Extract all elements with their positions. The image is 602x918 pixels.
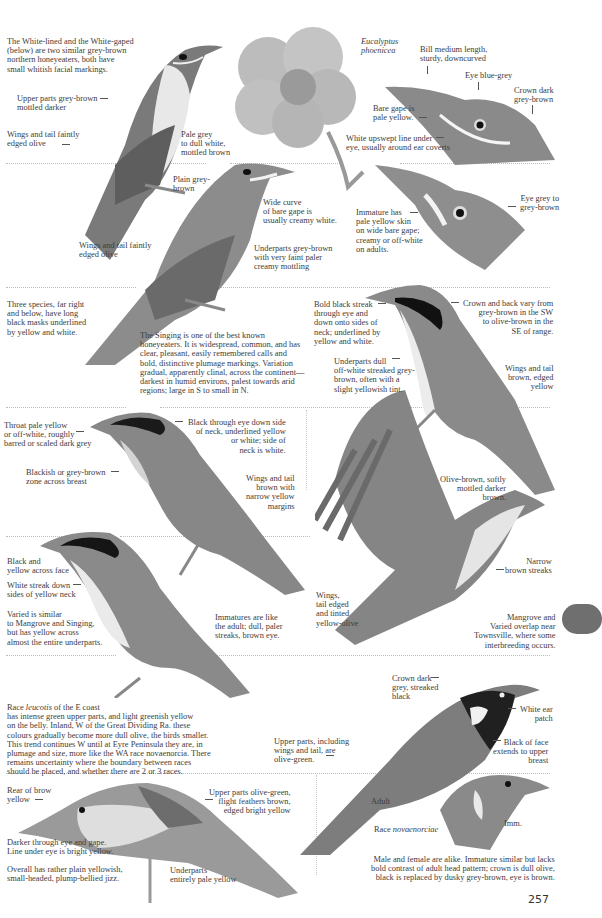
white-lined-intro: The White-lined and the White-gaped (bel… xyxy=(7,37,134,74)
white-lined-upswept-label: White upswept line under eye, usually ar… xyxy=(346,134,450,152)
leader-line xyxy=(73,584,81,585)
immature-label: Imm. xyxy=(504,819,522,828)
darker-through-eye-label: Darker through eye and gape. Line under … xyxy=(7,838,113,856)
leader-line xyxy=(100,98,108,99)
leader-line xyxy=(378,303,386,304)
singing-description: The Singing is one of the best known hon… xyxy=(140,331,304,395)
race-novaenorciae-immature-illustration xyxy=(440,770,550,850)
leader-line xyxy=(326,755,334,756)
black-face-label: Black of face extends to upper breast xyxy=(493,738,548,766)
plant-label-genus: Eucalyptus xyxy=(361,37,398,46)
leader-line xyxy=(493,740,501,741)
leader-line xyxy=(532,105,533,114)
white-lined-bill-label: Bill medium length, sturdy, downcurved xyxy=(420,45,487,63)
white-lined-wings-label: Wings and tail faintly edged olive xyxy=(7,130,79,148)
leader-line xyxy=(62,144,70,145)
mangrove-black-eye-label: Black through eye down side of neck, und… xyxy=(188,418,286,455)
white-lined-crown-label: Crown dark grey-brown xyxy=(514,86,554,104)
singing-crown-back-label: Crown and back vary from grey-brown in t… xyxy=(463,299,553,336)
leader-line xyxy=(436,137,444,138)
sexes-note: Male and female are alike. Immature simi… xyxy=(371,855,555,883)
leader-line xyxy=(392,358,400,359)
yellow-faced-underparts-label: Underparts entirely pale yellow xyxy=(170,866,237,884)
white-lined-underparts-label: Pale grey to dull white, mottled brown xyxy=(181,130,230,158)
mangrove-throat-label: Throat pale yellow or off-white, roughly… xyxy=(4,421,91,449)
white-ear-patch-label: White ear patch xyxy=(520,705,553,723)
leader-line xyxy=(175,421,183,422)
varied-immatures-note: Immatures are like the adult; dull, pale… xyxy=(215,613,282,641)
mangrove-wings-tinted-label: Wings, tail edged and tinted yellow-oliv… xyxy=(316,591,358,628)
white-gaped-plain-label: Plain grey- brown xyxy=(173,175,210,193)
leader-line xyxy=(451,302,459,303)
adult-label: Adult xyxy=(371,797,390,806)
leader-line xyxy=(76,431,84,432)
leader-line xyxy=(35,799,43,800)
singing-underparts-label: Underparts dull off-white streaked grey-… xyxy=(334,357,415,394)
rear-brow-label: Rear of brow yellow xyxy=(7,786,51,804)
race-leucotis-paragraph: Race leucotis of the E coast has intense… xyxy=(7,703,211,777)
mangrove-overlap-note: Mangrove and Varied overlap near Townsvi… xyxy=(474,613,556,650)
section-thumb-tab xyxy=(562,604,602,634)
yellow-faced-upperparts-label: Upper parts olive-green, flight feathers… xyxy=(209,788,291,816)
singing-streak-label: Bold black streak through eye and down o… xyxy=(314,300,381,346)
divider xyxy=(306,410,307,490)
white-gaped-wings-label: Wings and tail faintly edged olive xyxy=(79,241,151,259)
three-species-note: Three species, far right and below, have… xyxy=(7,300,86,337)
race-novaenorciae-label: Race novaenorciae xyxy=(374,816,438,834)
leader-line xyxy=(478,82,479,90)
page-number: 257 xyxy=(528,893,549,906)
varied-similar-note: Varied is similar to Mangrove and Singin… xyxy=(7,610,102,647)
varied-face-label: Black and yellow across face xyxy=(7,557,69,575)
leader-line xyxy=(410,212,418,213)
leader-line xyxy=(496,569,504,570)
divider xyxy=(215,655,550,656)
race-leucotis-text: has intense green upper parts, and light… xyxy=(7,712,211,776)
leader-line xyxy=(431,677,439,678)
leader-line xyxy=(508,206,516,207)
upperparts-olive-green-label: Upper parts, including wings and tail, a… xyxy=(274,737,349,765)
white-lined-upperparts-label: Upper parts grey-brown mottled darker xyxy=(17,94,97,112)
overall-jizz-note: Overall has rather plain yellowish, smal… xyxy=(7,865,123,883)
mangrove-narrow-label: Narrow brown streaks xyxy=(505,557,552,575)
leader-line xyxy=(419,117,427,118)
mangrove-olive-label: Olive-brown, softly mottled darker brown… xyxy=(440,475,506,503)
leader-line xyxy=(508,708,516,709)
leader-line xyxy=(111,471,119,472)
singing-wings-label: Wings and tail brown, edged yellow xyxy=(505,364,554,392)
leader-line xyxy=(205,799,213,800)
varied-streak-label: White streak down sides of yellow neck xyxy=(7,581,76,599)
white-lined-gape-label: Bare gape is pale yellow. xyxy=(373,104,414,122)
white-gaped-underparts-label: Underparts grey-brown with very faint pa… xyxy=(254,244,332,272)
crown-dark-grey-label: Crown dark grey, streaked black xyxy=(392,674,438,702)
plant-label-species: phoenicea xyxy=(361,46,395,55)
white-lined-eye-label: Eye blue-grey xyxy=(465,71,512,80)
mangrove-wings-label: Wings and tail brown with narrow yellow … xyxy=(246,474,295,511)
mangrove-breast-label: Blackish or grey-brown zone across breas… xyxy=(26,468,106,486)
white-gaped-gape-label: Wide curve of bare gape is usually cream… xyxy=(263,198,337,226)
leader-line xyxy=(427,66,428,74)
white-gaped-eye-label: Eye grey to grey-brown xyxy=(520,194,559,212)
white-gaped-immature-label: Immature has pale yellow skin on wide ba… xyxy=(356,208,423,254)
